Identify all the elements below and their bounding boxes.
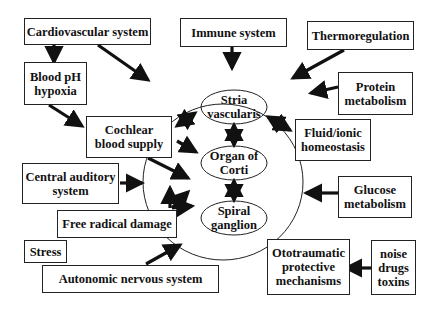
blood-ph-hypoxia-box: Blood pH hypoxia xyxy=(24,62,87,105)
central-auditory-system-box: Central auditory system xyxy=(22,163,119,204)
ototraumatic-protective-mechanisms-box: Ototraumatic protective mechanisms xyxy=(267,239,350,295)
glucose-metabolism-box: Glucose metabolism xyxy=(338,176,412,218)
stress-box: Stress xyxy=(24,240,67,263)
stria-vascularis-node: Stria vascularis xyxy=(201,90,267,124)
cochlear-blood-supply-box: Cochlear blood supply xyxy=(86,116,172,158)
autonomic-nervous-system-box: Autonomic nervous system xyxy=(42,265,219,293)
noise-drugs-toxins-box: noise drugs toxins xyxy=(371,240,416,295)
spiral-ganglion-node: Spiral ganglion xyxy=(201,201,267,235)
immune-system-box: Immune system xyxy=(180,18,287,47)
organ-of-corti-node: Organ of Corti xyxy=(201,146,267,180)
fluid-ionic-homeostasis-box: Fluid/ionic homeostasis xyxy=(295,119,371,161)
cardiovascular-system-box: Cardiovascular system xyxy=(24,18,151,45)
protein-metabolism-box: Protein metabolism xyxy=(338,72,413,115)
thermoregulation-box: Thermoregulation xyxy=(307,21,414,50)
free-radical-damage-box: Free radical damage xyxy=(57,210,177,238)
